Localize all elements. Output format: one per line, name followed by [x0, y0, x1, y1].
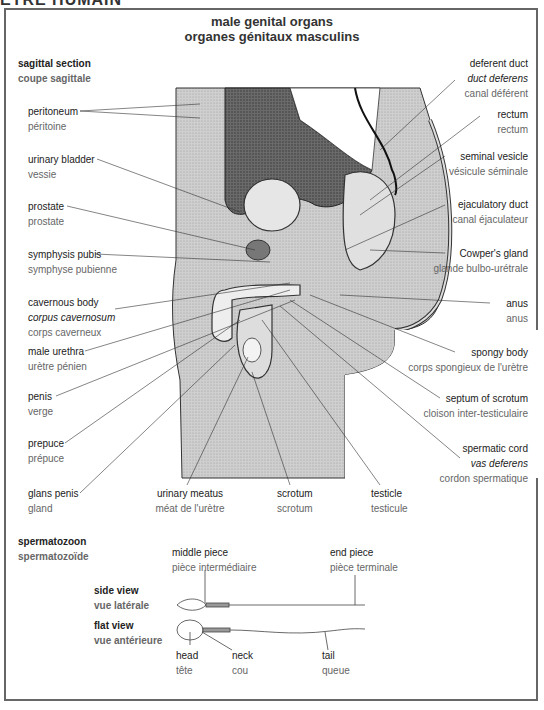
label-latin: vas deferens	[440, 456, 528, 471]
label-fr: queue	[322, 663, 350, 678]
label-en: ejaculatory duct	[458, 199, 528, 210]
section-heading: sagittal section coupe sagittale	[18, 56, 91, 86]
label-scrotum: scrotum scrotum	[277, 486, 313, 516]
label-testicle: testicle testicule	[371, 486, 408, 516]
label-en: urinary meatus	[157, 488, 223, 499]
label-urinary-bladder: urinary bladder vessie	[28, 152, 95, 182]
label-fr: scrotum	[277, 501, 313, 516]
label-flat-view: flat view vue antérieure	[94, 618, 162, 648]
label-cavernous-body: cavernous body corpus cavernosum corps c…	[28, 295, 115, 340]
label-en: tail	[322, 650, 335, 661]
section-heading-en: sagittal section	[18, 58, 91, 69]
label-fr: testicule	[371, 501, 408, 516]
label-fr: vue antérieure	[94, 633, 162, 648]
label-fr: péritoine	[28, 119, 78, 134]
label-en: end piece	[330, 547, 373, 558]
label-en: spermatic cord	[462, 443, 528, 454]
section-heading-fr: coupe sagittale	[18, 71, 91, 86]
label-tail: tail queue	[322, 648, 350, 678]
label-en: Cowper's gland	[459, 248, 528, 259]
label-en: male urethra	[28, 346, 84, 357]
label-en: prostate	[28, 201, 64, 212]
label-fr: cloison inter-testiculaire	[424, 406, 529, 421]
label-deferent-duct: deferent duct duct deferens canal défére…	[465, 56, 528, 101]
label-en: scrotum	[277, 488, 313, 499]
spermatozoon-flat-view-illustration	[177, 620, 365, 650]
label-en: side view	[94, 585, 138, 596]
label-urinary-meatus: urinary meatus méat de l'urètre	[155, 486, 225, 516]
label-en: neck	[232, 650, 253, 661]
label-en: anus	[506, 298, 528, 309]
label-symphysis-pubis: symphysis pubis symphyse pubienne	[28, 247, 117, 277]
label-penis: penis verge	[28, 389, 53, 419]
label-fr: vue latérale	[94, 598, 149, 613]
label-fr: vésicule séminale	[449, 164, 528, 179]
label-fr: verge	[28, 404, 53, 419]
label-seminal-vesicle: seminal vesicle vésicule séminale	[449, 149, 528, 179]
label-en: spermatozoon	[18, 536, 86, 547]
label-spongy-body: spongy body corps spongieux de l'urètre	[408, 345, 528, 375]
label-fr: méat de l'urètre	[155, 501, 225, 516]
label-fr: pièce intermédiaire	[172, 560, 257, 575]
label-fr: corps spongieux de l'urètre	[408, 360, 528, 375]
label-fr: prépuce	[28, 451, 64, 466]
label-latin: duct deferens	[465, 71, 528, 86]
label-en: testicle	[371, 488, 402, 499]
label-fr: gland	[28, 501, 79, 516]
label-fr: pièce terminale	[330, 560, 398, 575]
label-cowpers-gland: Cowper's gland glande bulbo-urétrale	[433, 246, 528, 276]
label-en: rectum	[497, 109, 528, 120]
label-fr: glande bulbo-urétrale	[433, 261, 528, 276]
label-en: septum of scrotum	[446, 393, 528, 404]
label-head: head tête	[176, 648, 198, 678]
label-ejaculatory-duct: ejaculatory duct canal éjaculateur	[452, 197, 528, 227]
label-en: spongy body	[471, 347, 528, 358]
label-fr: canal déférent	[465, 86, 528, 101]
label-fr: rectum	[497, 122, 528, 137]
label-en: middle piece	[172, 547, 228, 558]
label-side-view: side view vue latérale	[94, 583, 149, 613]
label-fr: anus	[506, 311, 528, 326]
label-en: seminal vesicle	[460, 151, 528, 162]
label-fr: urètre pénien	[28, 359, 87, 374]
label-en: flat view	[94, 620, 133, 631]
label-septum-of-scrotum: septum of scrotum cloison inter-testicul…	[424, 391, 529, 421]
label-en: penis	[28, 391, 52, 402]
label-en: cavernous body	[28, 297, 99, 308]
label-en: prepuce	[28, 438, 64, 449]
label-en: head	[176, 650, 198, 661]
label-spermatic-cord: spermatic cord vas deferens cordon sperm…	[440, 441, 528, 486]
label-prepuce: prepuce prépuce	[28, 436, 64, 466]
label-prostate: prostate prostate	[28, 199, 64, 229]
label-en: peritoneum	[28, 106, 78, 117]
label-fr: vessie	[28, 167, 95, 182]
label-latin: corpus cavernosum	[28, 310, 115, 325]
label-fr: spermatozoïde	[18, 549, 89, 564]
label-fr: corps caverneux	[28, 325, 115, 340]
label-en: deferent duct	[470, 58, 528, 69]
label-glans-penis: glans penis gland	[28, 486, 79, 516]
label-en: glans penis	[28, 488, 79, 499]
label-fr: prostate	[28, 214, 64, 229]
label-fr: cou	[232, 663, 253, 678]
label-middle-piece: middle piece pièce intermédiaire	[172, 545, 257, 575]
spermatozoon-side-view-illustration	[177, 570, 365, 610]
label-en: symphysis pubis	[28, 249, 101, 260]
label-neck: neck cou	[232, 648, 253, 678]
label-anus: anus anus	[506, 296, 528, 326]
label-fr: canal éjaculateur	[452, 212, 528, 227]
label-rectum: rectum rectum	[497, 107, 528, 137]
label-end-piece: end piece pièce terminale	[330, 545, 398, 575]
spermatozoon-heading: spermatozoon spermatozoïde	[18, 534, 89, 564]
label-fr: cordon spermatique	[440, 471, 528, 486]
label-fr: tête	[176, 663, 198, 678]
label-en: urinary bladder	[28, 154, 95, 165]
label-peritoneum: peritoneum péritoine	[28, 104, 78, 134]
label-male-urethra: male urethra urètre pénien	[28, 344, 87, 374]
label-fr: symphyse pubienne	[28, 262, 117, 277]
